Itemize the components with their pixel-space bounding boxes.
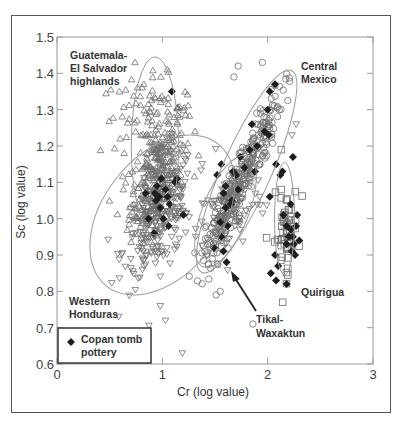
triangle-up-marker [121, 150, 128, 156]
triangle-up-marker [114, 211, 121, 217]
triangle-down-marker [289, 133, 296, 139]
y-tick-label: 1.5 [36, 30, 54, 45]
circle-marker [194, 278, 200, 284]
triangle-up-marker [169, 126, 176, 132]
circle-marker [217, 288, 223, 294]
triangle-up-marker [111, 145, 118, 151]
circle-marker [269, 140, 275, 146]
triangle-up-marker [149, 74, 156, 80]
triangle-down-marker [293, 122, 300, 128]
circle-marker [274, 113, 280, 119]
triangle-down-marker [198, 168, 205, 174]
triangle-down-marker [162, 318, 169, 324]
triangle-down-marker [224, 268, 231, 274]
square-marker [279, 299, 286, 306]
triangle-up-marker [132, 128, 139, 134]
triangle-down-marker [167, 261, 174, 267]
y-tick-label: 1.0 [36, 212, 54, 227]
triangle-down-marker [179, 351, 186, 357]
label-central-mexico-2: Mexico [301, 73, 337, 85]
y-tick-label: 1.3 [36, 103, 54, 118]
circle-marker [206, 276, 212, 282]
triangle-up-marker [124, 120, 131, 126]
triangle-down-marker [152, 261, 159, 267]
copan-diamond-marker [289, 153, 297, 161]
label-western-honduras-2: Honduras [69, 308, 118, 320]
y-tick-label: 0.8 [36, 284, 54, 299]
triangle-down-marker [108, 281, 115, 287]
triangle-up-marker [182, 112, 189, 118]
triangle-down-marker [116, 276, 123, 282]
square-marker [299, 193, 306, 200]
triangle-down-marker [126, 293, 133, 299]
circle-marker [202, 224, 208, 230]
y-tick-label: 1.4 [36, 66, 54, 81]
triangle-down-marker [184, 171, 191, 177]
y-tick-label: 0.7 [36, 321, 54, 336]
circle-marker [199, 281, 205, 287]
triangle-up-marker [158, 74, 165, 80]
circle-marker [272, 93, 278, 99]
copan-diamond-marker [223, 258, 231, 266]
triangle-up-marker [192, 128, 199, 134]
triangle-up-marker [120, 186, 127, 192]
triangle-up-marker [177, 140, 184, 146]
x-tick-label: 0 [53, 367, 60, 382]
triangle-up-marker [119, 113, 126, 119]
tikal-arrow [235, 278, 256, 311]
copan-diamond-marker [272, 276, 280, 284]
label-quirigua: Quirigua [301, 286, 344, 298]
triangle-up-marker [110, 115, 117, 121]
triangle-up-marker [150, 67, 157, 73]
triangle-up-marker [137, 93, 144, 99]
triangle-up-marker [107, 86, 114, 92]
y-tick-label: 0.6 [36, 357, 54, 372]
triangle-up-marker [122, 179, 129, 185]
x-tick-label: 2 [264, 367, 271, 382]
triangle-up-marker [117, 135, 124, 141]
triangle-down-marker [259, 211, 266, 217]
label-tikal-2: Waxaktun [256, 327, 305, 339]
triangle-up-marker [128, 239, 135, 245]
triangle-up-marker [132, 59, 139, 65]
label-guatemala-3: highlands [70, 75, 120, 87]
y-tick-label: 1.1 [36, 175, 54, 190]
tikal-arrowhead-icon [231, 271, 240, 282]
circle-marker [285, 97, 291, 103]
triangle-down-marker [157, 274, 164, 280]
triangle-up-marker [128, 76, 135, 82]
copan-diamond-marker [267, 269, 275, 277]
triangle-down-marker [157, 304, 164, 310]
triangle-down-marker [212, 147, 219, 153]
circle-marker [280, 87, 286, 93]
triangle-up-marker [155, 131, 162, 137]
triangle-up-marker [106, 198, 113, 204]
circle-marker [231, 74, 237, 80]
y-axis-title: Sc (log value) [14, 165, 28, 238]
triangle-down-marker [176, 236, 183, 242]
triangle-up-marker [123, 134, 130, 140]
triangle-up-marker [122, 87, 129, 93]
circle-marker [268, 95, 274, 101]
triangle-down-marker [263, 203, 270, 209]
triangle-down-marker [182, 230, 189, 236]
legend-label-2: pottery [81, 346, 117, 358]
triangle-up-marker [195, 152, 202, 158]
triangle-down-marker [132, 287, 139, 293]
label-central-mexico-1: Central [301, 60, 337, 72]
label-western-honduras-1: Western [69, 295, 110, 307]
triangle-up-marker [106, 118, 113, 124]
y-tick-label: 0.9 [36, 248, 54, 263]
square-marker [263, 235, 270, 242]
triangle-up-marker [185, 140, 192, 146]
y-tick-label: 1.2 [36, 139, 54, 154]
triangle-down-marker [240, 239, 247, 245]
label-guatemala-2: El Salvador [70, 62, 127, 74]
triangle-down-marker [128, 256, 135, 262]
scatter-chart: 0.60.70.80.91.01.11.21.31.41.50123 Guate… [0, 0, 403, 424]
circle-marker [253, 110, 259, 116]
triangle-up-marker [131, 181, 138, 187]
circle-marker [235, 63, 241, 69]
x-axis-title: Cr (log value) [177, 385, 249, 399]
triangle-up-marker [116, 88, 123, 94]
